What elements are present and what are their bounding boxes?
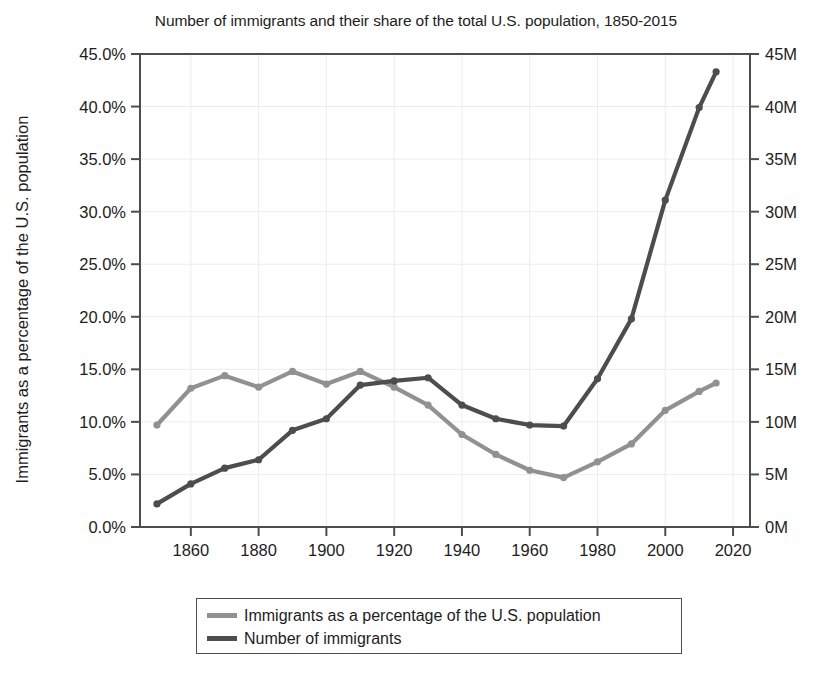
legend-label-number: Number of immigrants (244, 630, 401, 648)
svg-text:15.0%: 15.0% (79, 360, 126, 378)
legend-swatch-percentage (207, 613, 237, 618)
gridlines (140, 54, 750, 527)
legend-item-percentage[interactable]: Immigrants as a percentage of the U.S. p… (207, 604, 681, 627)
svg-text:35.0%: 35.0% (79, 150, 126, 168)
svg-text:30.0%: 30.0% (79, 203, 126, 221)
chart-legend: Immigrants as a percentage of the U.S. p… (196, 598, 682, 654)
svg-text:35M: 35M (765, 150, 797, 168)
plot-area: 0.0%5.0%10.0%15.0%20.0%25.0%30.0%35.0%40… (0, 0, 832, 683)
legend-swatch-number (207, 636, 237, 641)
svg-text:0M: 0M (765, 518, 788, 536)
svg-text:10M: 10M (765, 413, 797, 431)
svg-text:25.0%: 25.0% (79, 255, 126, 273)
svg-text:20M: 20M (765, 308, 797, 326)
svg-text:40M: 40M (765, 98, 797, 116)
svg-text:45.0%: 45.0% (79, 45, 126, 63)
svg-text:1960: 1960 (511, 541, 548, 559)
legend-label-percentage: Immigrants as a percentage of the U.S. p… (244, 607, 601, 625)
svg-text:1940: 1940 (444, 541, 481, 559)
x-axis-ticks: 186018801900192019401960198020002020 (172, 527, 751, 559)
svg-text:5.0%: 5.0% (88, 465, 126, 483)
svg-text:2020: 2020 (715, 541, 752, 559)
svg-text:1880: 1880 (240, 541, 277, 559)
svg-text:5M: 5M (765, 465, 788, 483)
y-axis-ticks: 0.0%5.0%10.0%15.0%20.0%25.0%30.0%35.0%40… (79, 45, 140, 536)
svg-text:15M: 15M (765, 360, 797, 378)
data-series-layer (153, 68, 719, 507)
svg-text:20.0%: 20.0% (79, 308, 126, 326)
svg-text:0.0%: 0.0% (88, 518, 126, 536)
svg-text:1980: 1980 (579, 541, 616, 559)
svg-text:10.0%: 10.0% (79, 413, 126, 431)
svg-text:45M: 45M (765, 45, 797, 63)
plot-frame (140, 54, 750, 527)
y2-axis-ticks: 0M5M10M15M20M25M30M35M40M45M (750, 45, 797, 536)
svg-text:2000: 2000 (647, 541, 684, 559)
svg-text:30M: 30M (765, 203, 797, 221)
legend-item-number[interactable]: Number of immigrants (207, 627, 681, 650)
svg-text:1920: 1920 (376, 541, 413, 559)
svg-text:1860: 1860 (172, 541, 209, 559)
svg-text:25M: 25M (765, 255, 797, 273)
svg-text:40.0%: 40.0% (79, 98, 126, 116)
immigration-chart: Number of immigrants and their share of … (0, 0, 832, 683)
svg-text:1900: 1900 (308, 541, 345, 559)
